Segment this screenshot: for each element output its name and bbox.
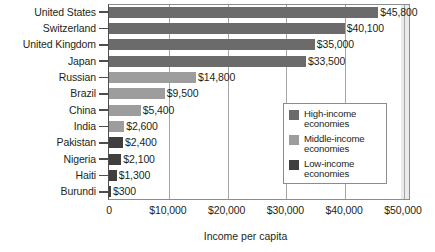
bar-value-label: $45,800: [380, 7, 417, 18]
axis-tick: [99, 11, 108, 13]
bar-value-label: $1,300: [119, 170, 151, 181]
bar-value-label: $300: [113, 186, 136, 197]
bar: [109, 121, 124, 132]
axis-tick: [99, 142, 108, 144]
bar: [109, 154, 121, 165]
category-label: United Kingdom: [0, 39, 96, 50]
bar-value-label: $2,600: [126, 121, 158, 132]
bar-row: United Kingdom$35,000: [0, 37, 435, 53]
x-axis-tick-label: $30,000: [267, 204, 304, 216]
bar: [109, 39, 315, 50]
income-per-capita-bar-chart: United States$45,800Switzerland$40,100Un…: [0, 0, 435, 252]
bar-value-label: $40,100: [347, 23, 384, 34]
bar: [109, 56, 306, 67]
category-label: Haiti: [0, 170, 96, 181]
x-axis-title-text: Income per capita: [204, 230, 287, 242]
axis-tick: [99, 44, 108, 46]
bar-value-label: $14,800: [198, 72, 235, 83]
legend-item: Low-incomeeconomies: [289, 159, 381, 180]
x-axis-tick-label: 0: [106, 204, 112, 216]
axis-tick: [99, 28, 108, 30]
axis-tick: [99, 93, 108, 95]
bar: [109, 88, 165, 99]
legend-label: High-incomeeconomies: [304, 109, 356, 130]
bar: [109, 170, 117, 181]
legend-swatch: [289, 135, 299, 145]
category-label: United States: [0, 7, 96, 18]
legend-label: Low-incomeeconomies: [304, 159, 354, 180]
x-axis-tick-label: $40,000: [326, 204, 363, 216]
chart-legend: High-incomeeconomiesMiddle-incomeeconomi…: [283, 103, 387, 184]
bar: [109, 23, 345, 34]
axis-tick: [99, 60, 108, 62]
category-label: Nigeria: [0, 154, 96, 165]
category-label: India: [0, 121, 96, 132]
bar-value-label: $9,500: [167, 88, 199, 99]
category-label: Switzerland: [0, 23, 96, 34]
category-label: Pakistan: [0, 137, 96, 148]
x-axis-tick-label: $50,000: [384, 204, 421, 216]
axis-tick: [99, 126, 108, 128]
legend-label: Middle-incomeeconomies: [304, 134, 364, 155]
legend-swatch: [289, 110, 299, 120]
bar: [109, 186, 111, 197]
category-label: Japan: [0, 56, 96, 67]
legend-item: Middle-incomeeconomies: [289, 134, 381, 155]
bar-row: Russian$14,800: [0, 69, 435, 85]
bar-row: United States$45,800: [0, 4, 435, 20]
category-label: Russian: [0, 72, 96, 83]
bar-row: Japan$33,500: [0, 53, 435, 69]
bar: [109, 105, 141, 116]
bar-value-label: $2,400: [125, 137, 157, 148]
axis-tick: [99, 77, 108, 79]
bar-row: Switzerland$40,100: [0, 20, 435, 36]
bar-value-label: $5,400: [143, 105, 175, 116]
bar-row: Burundi$300: [0, 184, 435, 200]
axis-tick: [99, 109, 108, 111]
category-label: Burundi: [0, 186, 96, 197]
axis-tick: [99, 158, 108, 160]
legend-item: High-incomeeconomies: [289, 109, 381, 130]
bar-value-label: $33,500: [308, 56, 345, 67]
legend-swatch: [289, 160, 299, 170]
bar: [109, 137, 123, 148]
category-label: China: [0, 105, 96, 116]
axis-tick: [99, 191, 108, 193]
bar-value-label: $35,000: [317, 39, 354, 50]
category-label: Brazil: [0, 88, 96, 99]
bar-value-label: $2,100: [123, 154, 155, 165]
axis-tick: [99, 175, 108, 177]
x-axis-title: Income per capita: [0, 230, 435, 242]
x-axis-tick-label: $20,000: [208, 204, 245, 216]
bar: [109, 72, 196, 83]
x-axis-tick-label: $10,000: [149, 204, 186, 216]
bar-row: Brazil$9,500: [0, 86, 435, 102]
bar: [109, 7, 378, 18]
